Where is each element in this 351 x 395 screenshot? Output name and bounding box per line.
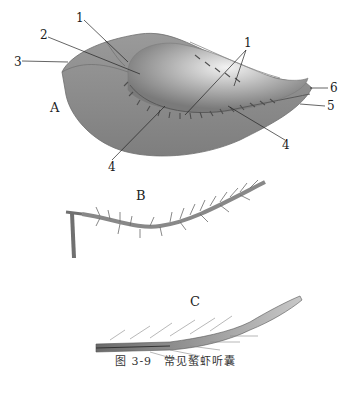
- panel-label-a: A: [50, 101, 59, 114]
- figure-title: 常见螯虾听囊: [164, 355, 236, 368]
- panel-label-b: B: [136, 189, 146, 202]
- callout-1-top: 1: [76, 12, 84, 24]
- statocyst-illustration: [0, 0, 351, 395]
- figure-number: 图 3-9: [115, 355, 152, 368]
- callout-4-right: 4: [282, 139, 290, 151]
- callout-1-right: 1: [244, 37, 252, 49]
- callout-2: 2: [40, 29, 48, 41]
- callout-3: 3: [14, 56, 22, 68]
- callout-5: 5: [327, 100, 335, 112]
- callout-4-left: 4: [108, 161, 116, 173]
- callout-6: 6: [330, 82, 338, 94]
- figure-caption: 图 3-9常见螯虾听囊: [0, 352, 351, 368]
- panel-label-c: C: [190, 295, 200, 308]
- panel-b-seta: [66, 180, 265, 258]
